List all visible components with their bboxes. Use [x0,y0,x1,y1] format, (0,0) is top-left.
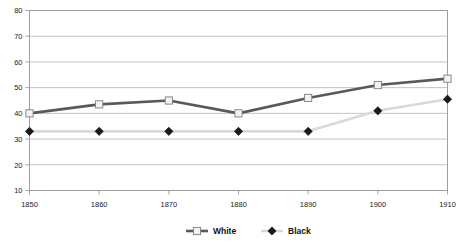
data-point-white-1900 [374,81,381,88]
data-point-white-1850 [26,110,33,117]
y-tick-label: 70 [14,32,22,41]
data-point-white-1880 [235,110,242,117]
legend-label-white: White [213,226,236,236]
line-chart: 1020304050607080 18501860187018801890190… [0,0,458,243]
x-tick-label: 1910 [439,200,456,209]
y-tick-label: 60 [14,58,22,67]
y-tick-label: 50 [14,83,22,92]
data-point-white-1910 [444,75,451,82]
y-tick-label: 30 [14,135,22,144]
legend-marker-white [193,227,200,234]
x-tick-label: 1890 [300,200,317,209]
y-tick-label: 10 [14,186,22,195]
data-point-white-1860 [96,101,103,108]
x-tick-label: 1900 [369,200,386,209]
x-tick-label: 1850 [21,200,38,209]
y-tick-label: 40 [14,109,22,118]
data-point-white-1890 [305,94,312,101]
data-point-white-1870 [165,97,172,104]
y-tick-label: 20 [14,161,22,170]
legend-label-black: Black [288,226,311,236]
y-tick-label: 80 [14,6,22,15]
x-tick-label: 1870 [160,200,177,209]
x-tick-label: 1860 [91,200,108,209]
chart-canvas: 1020304050607080 18501860187018801890190… [0,0,458,243]
x-tick-label: 1880 [230,200,247,209]
